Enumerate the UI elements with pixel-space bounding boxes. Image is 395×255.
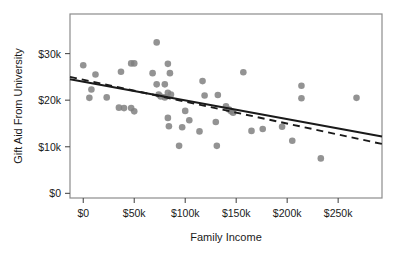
- data-point: [196, 128, 203, 135]
- y-axis-tick-label: $30k: [38, 48, 62, 60]
- x-axis-tick-label: $200k: [273, 207, 302, 219]
- data-point: [166, 123, 173, 130]
- data-point: [215, 92, 222, 99]
- data-point: [240, 69, 247, 76]
- data-point: [121, 105, 128, 112]
- data-point: [80, 62, 87, 69]
- y-axis-tick-label: $10k: [38, 141, 62, 153]
- data-point: [186, 117, 193, 124]
- data-point: [92, 71, 99, 78]
- data-point: [153, 39, 160, 46]
- scatter-plot-figure: $0$50k$100k$150k$200k$250k$0$10k$20k$30k…: [0, 0, 395, 255]
- data-point: [176, 143, 183, 150]
- data-point: [118, 68, 125, 75]
- x-axis-tick-label: $0: [77, 207, 89, 219]
- data-point: [214, 143, 221, 150]
- x-axis-title: Family Income: [190, 231, 262, 243]
- data-point: [165, 61, 172, 68]
- y-axis-tick-label: $20k: [38, 94, 62, 106]
- data-point: [179, 124, 186, 131]
- data-point: [86, 95, 93, 102]
- data-point: [165, 115, 172, 122]
- data-point: [298, 82, 305, 89]
- data-point: [103, 94, 110, 101]
- y-axis-tick-label: $0: [49, 187, 61, 199]
- plot-canvas: $0$50k$100k$150k$200k$250k$0$10k$20k$30k…: [0, 0, 395, 255]
- x-axis-tick-label: $150k: [222, 207, 251, 219]
- data-point: [153, 81, 160, 88]
- data-point: [182, 108, 189, 115]
- data-point: [298, 95, 305, 102]
- data-point: [149, 70, 156, 77]
- data-point: [289, 137, 296, 144]
- data-point: [201, 92, 208, 99]
- data-point: [131, 60, 138, 67]
- data-point: [199, 78, 206, 85]
- data-point: [88, 86, 95, 93]
- data-point: [162, 81, 169, 88]
- data-point: [318, 155, 325, 162]
- data-point: [167, 70, 174, 77]
- data-point: [353, 95, 360, 102]
- data-point: [248, 128, 255, 135]
- x-axis-tick-label: $100k: [171, 207, 200, 219]
- x-axis-tick-label: $250k: [324, 207, 353, 219]
- data-point: [213, 119, 220, 126]
- data-point: [279, 123, 286, 130]
- y-axis-title: Gift Aid From University: [12, 48, 24, 164]
- data-point: [259, 126, 266, 133]
- x-axis-tick-label: $50k: [123, 207, 147, 219]
- data-point: [131, 108, 138, 115]
